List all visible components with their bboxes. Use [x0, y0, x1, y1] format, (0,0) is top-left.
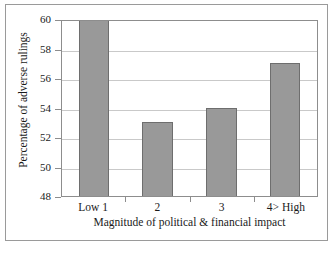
- y-axis-tick-label: 52: [11, 132, 51, 143]
- x-axis-tick-mark: [125, 197, 126, 202]
- x-axis-title: Magnitude of political & financial impac…: [61, 216, 318, 229]
- y-axis-tick-mark: [55, 197, 61, 198]
- bars-group: [62, 21, 317, 196]
- y-axis-tick-label: 54: [11, 103, 51, 114]
- plot-area: [61, 20, 318, 197]
- y-axis-tick-mark: [55, 109, 61, 110]
- y-axis-tick-label: 48: [11, 191, 51, 202]
- x-axis-tick-label: 4> High: [254, 201, 318, 214]
- bar-2[interactable]: [142, 122, 173, 196]
- x-axis-tick-mark: [254, 197, 255, 202]
- y-axis-tick-mark: [55, 138, 61, 139]
- y-axis-tick-label: 60: [11, 14, 51, 25]
- bar-slot: [62, 21, 126, 196]
- x-axis-tick-label: Low 1: [61, 201, 125, 214]
- figure-outer-frame: Percentage of adverse rulings 6058565452…: [5, 4, 328, 241]
- y-axis-tick-mark: [55, 168, 61, 169]
- bar-low-1[interactable]: [79, 20, 110, 196]
- y-axis-tick-mark: [55, 50, 61, 51]
- y-axis-tick-mark: [55, 20, 61, 21]
- y-axis-tick-label: 50: [11, 162, 51, 173]
- bar-4-high[interactable]: [270, 63, 301, 196]
- figure-container: Percentage of adverse rulings 6058565452…: [0, 0, 333, 254]
- x-axis-tick-label: 3: [190, 201, 254, 214]
- bar-slot: [126, 21, 190, 196]
- y-axis-tick-label: 56: [11, 73, 51, 84]
- bar-slot: [190, 21, 254, 196]
- y-axis-tick-label: 58: [11, 44, 51, 55]
- y-axis-tick-mark: [55, 79, 61, 80]
- bar-slot: [253, 21, 317, 196]
- x-axis-tick-mark: [190, 197, 191, 202]
- x-axis-tick-label: 2: [125, 201, 189, 214]
- bar-3[interactable]: [206, 108, 237, 197]
